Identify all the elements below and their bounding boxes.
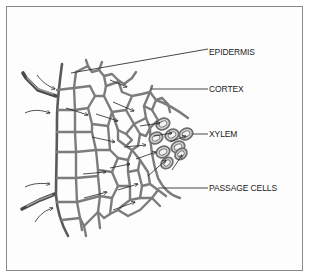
label-epidermis: EPIDERMIS bbox=[209, 47, 255, 57]
arrow bbox=[25, 110, 50, 113]
epidermis-leader bbox=[71, 49, 208, 73]
root-cross-section-diagram: EPIDERMIS CORTEX XYLEM PASSAGE CELLS bbox=[0, 0, 311, 277]
root-hair-upper bbox=[23, 73, 56, 96]
arrow bbox=[35, 208, 53, 222]
arrow bbox=[92, 137, 115, 142]
label-cortex: CORTEX bbox=[209, 84, 244, 94]
arrow bbox=[83, 172, 106, 174]
arrow bbox=[37, 75, 55, 89]
cortex-cells bbox=[74, 60, 170, 236]
label-passage-cells: PASSAGE CELLS bbox=[209, 183, 277, 193]
root-hair-lower bbox=[22, 194, 55, 209]
label-xylem: XYLEM bbox=[209, 129, 237, 139]
arrow bbox=[25, 183, 50, 187]
